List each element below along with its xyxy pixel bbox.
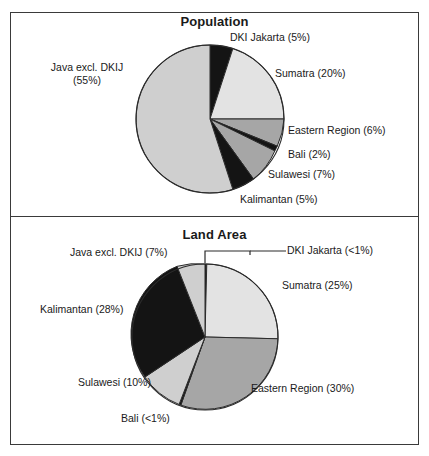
population-pie-chart	[134, 43, 286, 195]
chart-panel-population: Population DKI Jakarta (5%) Sumatra (20%…	[0, 0, 429, 222]
land-area-label-bali: Bali (<1%)	[121, 412, 170, 425]
population-chart-title: Population	[0, 14, 429, 29]
land-area-label-sumatra: Sumatra (25%)	[282, 279, 353, 292]
land-area-label-sulawesi: Sulawesi (10%)	[78, 376, 151, 389]
pie-slice-sumatra	[205, 264, 278, 339]
population-label-kalimantan: Kalimantan (5%)	[240, 193, 318, 206]
land-area-label-dki-jakarta: DKI Jakarta (<1%)	[287, 244, 373, 257]
land-area-label-java-excl-dkij: Java excl. DKIJ (7%)	[70, 246, 167, 259]
chart-panel-land-area: Land Area DKI Jakarta (<1%) Sumatra (	[0, 222, 429, 456]
land-area-label-kalimantan: Kalimantan (28%)	[40, 303, 123, 316]
population-label-java-line1: Java excl. DKIJ	[51, 61, 123, 73]
population-label-eastern-region: Eastern Region (6%)	[288, 124, 385, 137]
land-area-label-eastern-region: Eastern Region (30%)	[251, 382, 354, 395]
population-label-java-line2: (55%)	[73, 74, 101, 86]
population-label-dki-jakarta: DKI Jakarta (5%)	[230, 31, 310, 44]
figure-root: Population DKI Jakarta (5%) Sumatra (20%…	[0, 0, 429, 456]
population-label-sulawesi: Sulawesi (7%)	[268, 168, 335, 181]
population-label-sumatra: Sumatra (20%)	[275, 67, 346, 80]
land-area-chart-title: Land Area	[0, 227, 429, 242]
population-label-bali: Bali (2%)	[288, 148, 331, 161]
